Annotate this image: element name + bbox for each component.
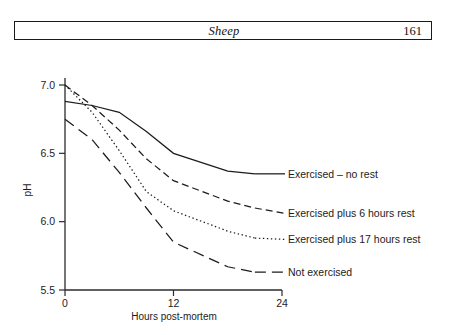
chart-legend-group: Exercised – no restExercised plus 6 hour… xyxy=(288,168,421,278)
series-line-1 xyxy=(65,85,255,208)
series-leader-1 xyxy=(255,208,285,213)
y-tick-label: 6.5 xyxy=(40,147,55,159)
chart-axes xyxy=(65,78,282,290)
series-leader-2 xyxy=(255,238,285,239)
ph-decline-line-chart: 5.56.06.57.0 01224 Exercised – no restEx… xyxy=(0,0,452,335)
y-axis-title: pH xyxy=(22,184,33,197)
x-axis-ticks: 01224 xyxy=(62,290,288,309)
x-tick-label: 0 xyxy=(62,297,68,309)
x-tick-label: 12 xyxy=(168,297,180,309)
y-tick-label: 5.5 xyxy=(40,284,55,296)
y-tick-label: 7.0 xyxy=(40,79,55,91)
y-axis-ticks: 5.56.06.57.0 xyxy=(40,79,65,296)
series-line-0 xyxy=(65,101,255,173)
chart-series-group xyxy=(65,85,285,272)
series-label-0: Exercised – no rest xyxy=(288,168,378,180)
series-line-2 xyxy=(65,85,255,238)
series-label-2: Exercised plus 17 hours rest xyxy=(288,233,421,245)
page-root: Sheep 161 5.56.06.57.0 01224 Exercised –… xyxy=(0,0,452,335)
x-axis-title: Hours post-mortem xyxy=(131,311,217,322)
y-tick-label: 6.0 xyxy=(40,215,55,227)
series-label-3: Not exercised xyxy=(288,266,352,278)
x-tick-label: 24 xyxy=(276,297,288,309)
chart-svg: 5.56.06.57.0 01224 Exercised – no restEx… xyxy=(0,0,452,335)
series-label-1: Exercised plus 6 hours rest xyxy=(288,207,415,219)
